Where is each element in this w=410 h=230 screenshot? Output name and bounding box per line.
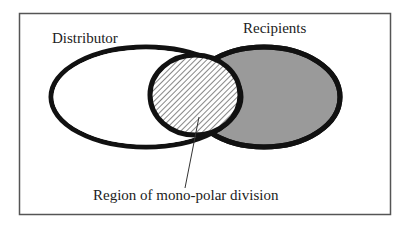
mono-polar-region [150, 55, 240, 135]
callout-label: Region of mono-polar division [93, 187, 279, 203]
recipients-label: Recipients [243, 20, 306, 36]
distributor-label: Distributor [52, 30, 118, 46]
venn-diagram: Distributor Recipients Region of mono-po… [0, 0, 410, 230]
